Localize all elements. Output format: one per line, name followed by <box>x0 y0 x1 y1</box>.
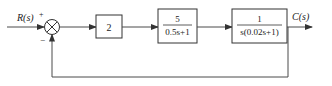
block-first-order-denominator: 0.5s+1 <box>165 27 189 37</box>
block-first-order-numerator: 5 <box>175 14 180 24</box>
output-label: C(s) <box>292 11 310 23</box>
summing-junction-icon <box>45 20 60 35</box>
block-diagram: R(s) + − 2 5 0.5s+1 1 s(0.02s+1) C(s) <box>0 0 332 86</box>
input-label: R(s) <box>16 12 34 24</box>
minus-sign: − <box>40 35 45 45</box>
plus-sign: + <box>39 10 44 19</box>
block-plant-numerator: 1 <box>257 14 262 24</box>
block-plant-denominator: s(0.02s+1) <box>240 27 278 37</box>
block-gain-expr: 2 <box>107 22 112 33</box>
